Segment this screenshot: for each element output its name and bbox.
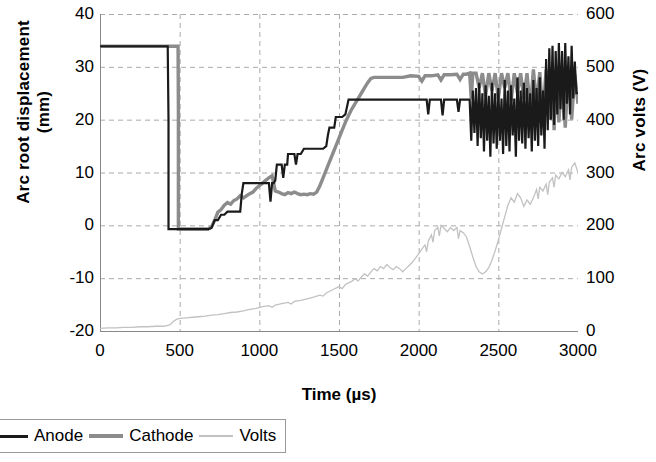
y-axis-right-ticks: 6005004003002001000 bbox=[586, 0, 636, 462]
x-axis-label: Time (µs) bbox=[100, 385, 578, 405]
x-tick-2000: 2000 bbox=[384, 342, 454, 359]
x-tick-1500: 1500 bbox=[304, 342, 374, 359]
legend-swatch-cathode-icon bbox=[89, 434, 123, 438]
x-tick-3000: 3000 bbox=[543, 342, 613, 359]
y-tick-left-30: 30 bbox=[48, 58, 94, 75]
legend-item-volts[interactable]: Volts bbox=[193, 426, 276, 446]
y-tick-right-100: 100 bbox=[586, 269, 632, 286]
x-tick-500: 500 bbox=[145, 342, 215, 359]
legend-label-volts: Volts bbox=[239, 426, 276, 446]
y-tick-left-10: 10 bbox=[48, 164, 94, 181]
y-tick-right-300: 300 bbox=[586, 164, 632, 181]
legend-item-anode[interactable]: Anode bbox=[0, 426, 83, 446]
x-tick-0: 0 bbox=[65, 342, 135, 359]
x-axis-ticks: 050010001500200025003000 bbox=[0, 342, 656, 366]
y-tick-left--20: -20 bbox=[48, 322, 94, 339]
chart-canvas bbox=[100, 14, 578, 332]
x-tick-1000: 1000 bbox=[224, 342, 294, 359]
x-tick-2500: 2500 bbox=[463, 342, 533, 359]
legend-label-anode: Anode bbox=[34, 426, 83, 446]
y-tick-right-200: 200 bbox=[586, 216, 632, 233]
legend-label-cathode: Cathode bbox=[129, 426, 193, 446]
legend-swatch-anode-icon bbox=[0, 435, 28, 438]
plot-area bbox=[100, 14, 578, 331]
y-axis-left-ticks: 403020100-10-20 bbox=[44, 0, 94, 462]
y-tick-right-0: 0 bbox=[586, 322, 632, 339]
legend-item-cathode[interactable]: Cathode bbox=[83, 426, 193, 446]
y-tick-right-500: 500 bbox=[586, 58, 632, 75]
y-tick-left--10: -10 bbox=[48, 269, 94, 286]
y-tick-right-600: 600 bbox=[586, 5, 632, 22]
chart-legend: Anode Cathode Volts bbox=[0, 419, 286, 453]
y-tick-right-400: 400 bbox=[586, 111, 632, 128]
y-tick-left-0: 0 bbox=[48, 216, 94, 233]
y-tick-left-20: 20 bbox=[48, 111, 94, 128]
legend-swatch-volts-icon bbox=[199, 435, 233, 437]
y-tick-left-40: 40 bbox=[48, 5, 94, 22]
